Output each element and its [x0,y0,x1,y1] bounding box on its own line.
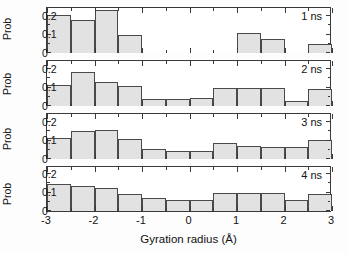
x-tick-top [190,167,191,172]
x-tick-minor [261,50,262,53]
histogram-bar [261,147,285,159]
x-tick [142,206,143,211]
x-tick-top [95,8,96,13]
x-tick-top [285,61,286,66]
panel-1ns: 1 ns 00.10.2 [46,7,331,53]
x-tick-minor [261,103,262,106]
x-tick-minor [308,50,309,53]
histogram-bar [118,194,142,211]
y-tick-minor [47,182,50,183]
y-tick-minor [47,130,50,131]
histogram-bar [71,131,95,159]
histogram-bar [118,35,142,53]
x-tick-minor-top [166,8,167,11]
histogram-bar [237,146,261,159]
bars-3ns [47,114,330,159]
x-tick-minor-top [118,167,119,170]
x-tick-minor [308,208,309,211]
x-tick [332,206,333,211]
histogram-bar [261,88,285,106]
histogram-bar [190,200,214,211]
x-tick-minor-top [71,8,72,11]
histogram-bar [95,130,119,159]
histogram-bar [308,194,332,211]
histogram-bar [285,101,309,106]
x-tick [237,101,238,106]
y-tick-right [326,140,330,141]
x-tick-top [95,167,96,172]
x-tick-label: 1 [233,215,239,226]
panel-4ns: 4 ns 00.10.2 [46,166,331,212]
x-tick [237,206,238,211]
y-tick-right [326,15,330,16]
x-tick [142,48,143,53]
x-tick-top [237,114,238,119]
y-tick-minor [47,43,50,44]
x-tick [285,101,286,106]
x-tick-minor [166,50,167,53]
y-tick-right [326,210,330,211]
x-tick [285,154,286,159]
bars-4ns [47,167,330,211]
histogram-bar [71,20,95,53]
histogram-bar [285,200,309,211]
x-tick [190,48,191,53]
x-tick [47,154,48,159]
histogram-bar [261,193,285,211]
x-tick-minor [261,208,262,211]
y-tick-minor-right [328,182,331,183]
x-tick [190,101,191,106]
x-tick-top [285,167,286,172]
x-tick-minor [118,50,119,53]
gyration-radius-histogram-figure: Prob Prob Prob Prob 1 ns 00.10.2 2 ns 00… [0,0,347,253]
y-tick-label: 0.2 [42,169,43,180]
x-tick-minor-top [213,61,214,64]
x-tick-top [47,61,48,66]
y-tick-label: 0.1 [42,29,43,40]
x-tick-label: -2 [89,215,99,226]
x-tick-top [190,8,191,13]
x-tick-minor [71,103,72,106]
x-tick-minor-top [213,167,214,170]
histogram-bar [95,10,119,53]
x-tick-top [190,114,191,119]
x-tick-minor [71,156,72,159]
x-tick-top [47,8,48,13]
y-tick-minor-right [328,149,331,150]
x-tick-minor-top [166,167,167,170]
x-tick-label: 2 [280,215,286,226]
x-tick-minor-top [308,114,309,117]
x-tick-minor-top [213,114,214,117]
x-tick-minor [308,103,309,106]
x-tick [190,206,191,211]
x-tick-minor [166,156,167,159]
x-tick [47,206,48,211]
histogram-bar [166,200,190,211]
y-axis-label-panel-1: Prob [2,18,13,40]
y-tick-minor-right [328,77,331,78]
x-tick-minor-top [308,167,309,170]
y-tick-label: 0.2 [42,117,43,128]
y-tick-minor [47,24,50,25]
histogram-bar [308,89,332,106]
y-tick-label: 0.2 [42,64,43,75]
x-tick [332,154,333,159]
x-tick [47,48,48,53]
x-tick [332,101,333,106]
histogram-bar [71,72,95,106]
x-tick-top [142,8,143,13]
x-tick-minor-top [118,114,119,117]
x-axis-title: Gyration radius (Å) [46,234,331,246]
y-tick-label: 0.1 [42,135,43,146]
y-tick-right [326,87,330,88]
x-tick-label: -3 [41,215,51,226]
histogram-bar [71,186,95,211]
y-axis-label-panel-4: Prob [2,183,13,205]
x-tick-top [47,114,48,119]
x-tick-labels: -3-2-10123 [46,215,331,229]
x-tick [285,48,286,53]
y-axis-label-panel-2: Prob [2,73,13,95]
y-tick-minor-right [328,201,331,202]
y-tick-right [326,121,330,122]
histogram-bar [190,151,214,159]
